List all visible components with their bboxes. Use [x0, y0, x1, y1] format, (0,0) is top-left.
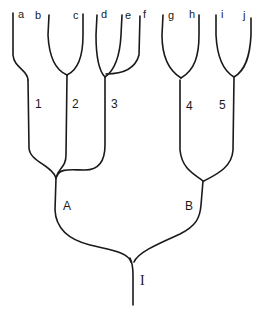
leaf-label-a: a: [18, 8, 25, 20]
tree-diagram: a b c d e f g h i j 1 2 3 4 5 A B I: [0, 0, 266, 312]
leaf-label-g: g: [168, 9, 174, 21]
branch-3-to-e: [105, 15, 122, 77]
branch-5-to-i: [216, 15, 234, 77]
branch-B-to-5: [204, 78, 234, 181]
branch-4-to-h: [181, 15, 199, 78]
root-label-I: I: [140, 273, 145, 288]
lineage-label-3: 3: [111, 97, 118, 111]
leaf-label-f: f: [143, 8, 147, 20]
branch-A-to-1: [28, 80, 56, 178]
lineage-label-5: 5: [219, 98, 226, 112]
branch-1-to-a: [13, 13, 28, 80]
branch-A-to-3: [57, 77, 105, 176]
branch-2-to-b: [48, 15, 67, 75]
node-label-A: A: [63, 199, 71, 213]
node-label-B: B: [185, 199, 193, 213]
branch-I-to-B: [134, 181, 203, 262]
lineage-label-1: 1: [35, 97, 42, 111]
leaf-label-i: i: [221, 8, 223, 20]
leaf-label-j: j: [242, 9, 245, 21]
branch-B-to-4: [180, 80, 203, 181]
leaf-label-e: e: [125, 9, 131, 21]
leaf-label-d: d: [101, 8, 107, 20]
lineage-label-4: 4: [186, 99, 193, 113]
branch-4-to-g: [162, 15, 181, 78]
branch-I-to-A: [55, 178, 131, 262]
leaf-label-c: c: [73, 9, 79, 21]
leaf-label-b: b: [35, 9, 41, 21]
branch-2-to-c: [67, 14, 83, 75]
leaf-label-h: h: [189, 8, 195, 20]
branch-5-to-j: [234, 18, 251, 77]
branch-root-I: [130, 258, 133, 305]
branch-3-to-d: [96, 15, 105, 77]
branch-A-to-2: [56, 75, 67, 178]
branch-3-to-f: [106, 16, 140, 74]
lineage-label-2: 2: [72, 97, 79, 111]
